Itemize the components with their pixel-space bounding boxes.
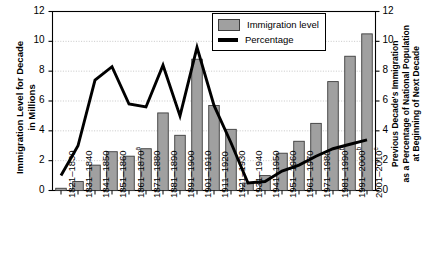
x-tick-label-1841–1850: 1841–1850 (100, 150, 111, 198)
y-tick-left-0: 0 (19, 184, 45, 195)
x-tick-label-1851–1860: 1851–1860 (117, 150, 128, 198)
chart-figure: Immigration Level for Decade in Millions… (0, 0, 428, 268)
y-tick-right-8: 8 (383, 64, 407, 75)
x-tick-label-1981–1990: 1981–1990b (338, 146, 350, 197)
bar-swatch-icon (218, 19, 240, 31)
x-tick-label-1951–1960: 1951–1960 (287, 150, 298, 198)
x-tick-label-1891–1900: 1891–1900 (185, 150, 196, 198)
bar-1821–1830 (56, 188, 67, 190)
x-tick-label-1991–2000: 1991–2000b (355, 146, 367, 197)
x-tick-label-1961–1970: 1961–1970 (304, 150, 315, 198)
x-tick-label-1881–1890: 1881–1890 (168, 150, 179, 198)
x-tick-label-1831–1840: 1831–1840 (83, 150, 94, 198)
y-tick-right-2: 2 (383, 154, 407, 165)
legend-item-percentage: Percentage (218, 32, 319, 47)
chart-legend: Immigration level Percentage (212, 13, 326, 51)
y-tick-left-12: 12 (19, 5, 45, 16)
x-tick-label-1911–1920: 1911–1920 (219, 151, 230, 198)
legend-item-immigration-level: Immigration level (218, 17, 319, 32)
x-tick-label-1901–1910: 1901–1910 (202, 150, 213, 198)
y-tick-right-4: 4 (383, 124, 407, 135)
x-tick-label-1931–1940: 1931–1940 (253, 150, 264, 198)
y-tick-left-8: 8 (19, 64, 45, 75)
legend-label-percentage: Percentage (245, 34, 294, 45)
x-tick-label-1821–1830: 1821–1830 (66, 150, 77, 198)
x-tick-label-1871–1880: 1871–1880 (151, 150, 162, 198)
y-tick-right-6: 6 (383, 94, 407, 105)
y-tick-left-10: 10 (19, 34, 45, 45)
y-tick-left-2: 2 (19, 154, 45, 165)
x-tick-label-1941–1950: 1941–1950 (270, 150, 281, 198)
x-tick-label-1921–1930: 1921–1930 (236, 150, 247, 198)
line-swatch-icon (218, 38, 238, 42)
x-tick-label-1861–1870: 1861–1870a (134, 146, 146, 197)
y-tick-left-4: 4 (19, 124, 45, 135)
x-tick-label-2001–2010: 2001–2010c (372, 147, 384, 198)
y-tick-right-10: 10 (383, 34, 407, 45)
legend-label-immigration-level: Immigration level (247, 19, 319, 30)
x-tick-label-1971–1980: 1971–1980 (321, 150, 332, 198)
y-tick-right-12: 12 (383, 5, 407, 16)
y-tick-left-6: 6 (19, 94, 45, 105)
y-tick-right-0: 0 (383, 184, 407, 195)
